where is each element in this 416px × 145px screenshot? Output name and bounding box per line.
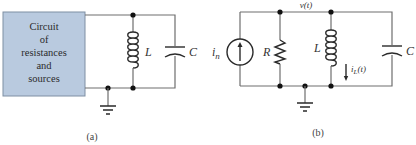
box-line-2: of (40, 34, 49, 45)
bottom-wire (240, 55, 392, 86)
caption-b: (b) (312, 127, 324, 139)
caption-a: (a) (86, 131, 97, 143)
circuit-a: Circuit of resistances and sources L C (… (3, 12, 198, 143)
inductor-label: L (144, 45, 152, 59)
node-dot (328, 9, 333, 14)
node-dot (328, 83, 333, 88)
node-dot (277, 83, 282, 88)
ground-icon (297, 86, 313, 111)
voltage-label: v(t) (300, 0, 313, 10)
box-line-3: resistances (21, 47, 66, 58)
circuit-figure: Circuit of resistances and sources L C (… (0, 0, 416, 145)
bottom-wire (85, 56, 175, 88)
node-dot (277, 9, 282, 14)
box-line-1: Circuit (29, 21, 58, 32)
top-wire (85, 15, 175, 46)
resistor-label: R (262, 45, 271, 59)
ground-icon (100, 88, 116, 114)
box-line-5: sources (28, 73, 60, 84)
inductor-label: L (313, 41, 321, 55)
source-label: in (212, 45, 220, 61)
box-line-4: and (36, 60, 52, 71)
inductor-current-arrowhead-icon (344, 76, 348, 81)
capacitor-label: C (406, 44, 415, 58)
inductor-coil-icon (326, 30, 337, 66)
inductor-current-label: iL(t) (351, 64, 366, 76)
capacitor-label: C (189, 45, 198, 59)
current-arrowhead-icon (238, 42, 243, 47)
node-dot (130, 85, 135, 90)
circuit-b: in R L iL(t) C v(t) (212, 0, 415, 139)
node-dot (130, 12, 135, 17)
resistor-zigzag-icon (275, 40, 285, 64)
inductor-coil-icon (128, 32, 139, 68)
